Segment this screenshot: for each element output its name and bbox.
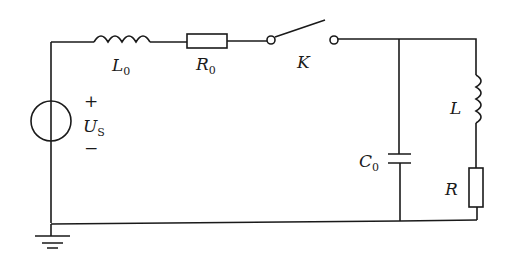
wire-top-right [338, 39, 476, 75]
capacitor-c0-icon [388, 154, 411, 163]
inductor-l-icon [476, 75, 481, 123]
resistor-r-icon [469, 168, 483, 207]
resistor-r0-icon [187, 34, 227, 48]
inductor-l0-icon [94, 36, 150, 42]
switch-terminal-right-icon [330, 36, 338, 44]
resistor-r-label: R [444, 179, 458, 199]
circuit-diagram: + US − L0 R0 K C0 L R [0, 0, 513, 257]
ground-icon [35, 236, 70, 248]
capacitor-c0-label: C0 [359, 151, 379, 174]
source-label: US [83, 116, 105, 139]
switch-label: K [296, 52, 311, 72]
inductor-l-label: L [449, 98, 461, 118]
switch-terminal-left-icon [267, 36, 275, 44]
wire-bottom [51, 220, 477, 224]
resistor-r0-label: R0 [195, 54, 216, 77]
switch-blade-icon [275, 20, 325, 37]
source-minus-label: − [84, 138, 98, 158]
source-plus-label: + [84, 91, 98, 111]
inductor-l0-label: L0 [111, 55, 130, 78]
